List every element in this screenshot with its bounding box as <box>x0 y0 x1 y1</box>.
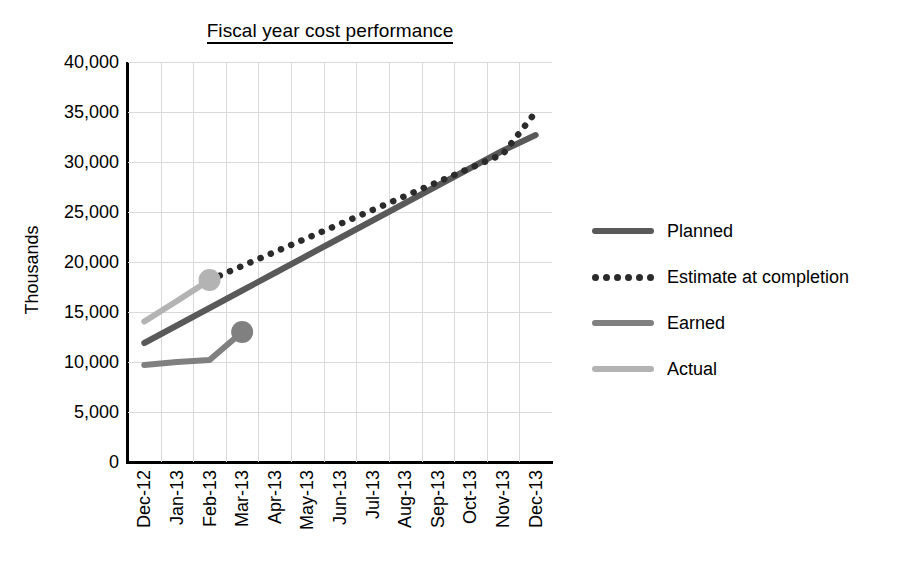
y-tick-label: 30,000 <box>64 152 119 173</box>
y-axis-title-text: Thousands <box>22 225 43 314</box>
x-tick-label: Aug-13 <box>394 466 416 562</box>
chart-title-text: Fiscal year cost performance <box>207 20 454 44</box>
series-marker-actual <box>199 269 221 291</box>
series-marker-earned <box>231 321 253 343</box>
x-tick-label: Feb-13 <box>199 466 221 562</box>
x-tick-label: Apr-13 <box>264 466 286 562</box>
y-tick-label: 40,000 <box>64 52 119 73</box>
legend-swatch-earned <box>592 314 654 332</box>
y-tick-label: 15,000 <box>64 302 119 323</box>
plot-area: 05,00010,00015,00020,00025,00030,00035,0… <box>128 62 552 462</box>
legend-swatch-estimate-at-completion <box>592 268 654 286</box>
x-tick-label-text: Jun-13 <box>330 470 351 525</box>
y-tick-label: 35,000 <box>64 102 119 123</box>
x-tick-label: May-13 <box>296 466 318 562</box>
x-tick-label-text: Oct-13 <box>460 470 481 524</box>
y-tick-label: 5,000 <box>74 402 119 423</box>
y-tick-label: 20,000 <box>64 252 119 273</box>
x-tick-label: Jun-13 <box>329 466 351 562</box>
x-tick-label: Jan-13 <box>166 466 188 562</box>
x-tick-label: Nov-13 <box>492 466 514 562</box>
x-tick-label-text: Aug-13 <box>395 470 416 528</box>
series-line-estimate-at-completion <box>210 112 536 280</box>
chart-title: Fiscal year cost performance <box>0 20 660 42</box>
y-tick-label: 0 <box>109 452 119 473</box>
legend-item[interactable]: Planned <box>592 208 902 254</box>
legend-label: Actual <box>667 359 717 380</box>
x-tick-label-text: Dec-12 <box>134 470 155 528</box>
x-tick-label-text: May-13 <box>297 470 318 530</box>
y-axis-title: Thousands <box>18 180 46 360</box>
y-tick-label: 25,000 <box>64 202 119 223</box>
x-tick-label-text: Apr-13 <box>264 470 285 524</box>
x-tick-label: Dec-13 <box>525 466 547 562</box>
legend-item[interactable]: Actual <box>592 346 902 392</box>
chart-legend: PlannedEstimate at completionEarnedActua… <box>592 208 902 392</box>
legend-swatch-planned <box>592 222 654 240</box>
x-tick-label-text: Nov-13 <box>493 470 514 528</box>
chart-figure: Fiscal year cost performance Thousands 0… <box>0 0 909 572</box>
legend-label: Planned <box>667 221 733 242</box>
x-tick-label-text: Jul-13 <box>362 470 383 519</box>
legend-label: Estimate at completion <box>667 267 849 288</box>
x-tick-label: Sep-13 <box>427 466 449 562</box>
x-tick-label: Mar-13 <box>231 466 253 562</box>
x-tick-label: Dec-12 <box>133 466 155 562</box>
x-tick-label: Jul-13 <box>362 466 384 562</box>
x-tick-label-text: Feb-13 <box>199 470 220 527</box>
x-tick-label-text: Jan-13 <box>166 470 187 525</box>
x-tick-label-text: Mar-13 <box>232 470 253 527</box>
x-tick-label-text: Sep-13 <box>427 470 448 528</box>
series-layer <box>128 62 552 462</box>
legend-item[interactable]: Earned <box>592 300 902 346</box>
legend-item[interactable]: Estimate at completion <box>592 254 902 300</box>
x-tick-label-text: Dec-13 <box>525 470 546 528</box>
x-tick-label: Oct-13 <box>459 466 481 562</box>
legend-label: Earned <box>667 313 725 334</box>
legend-swatch-actual <box>592 360 654 378</box>
y-tick-label: 10,000 <box>64 352 119 373</box>
